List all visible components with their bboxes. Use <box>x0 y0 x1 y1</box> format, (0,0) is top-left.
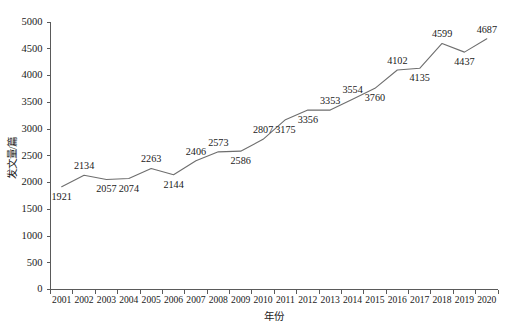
data-point-label: 3760 <box>365 92 385 103</box>
x-tick-label: 2001 <box>52 294 71 305</box>
data-point-label: 2074 <box>119 183 139 194</box>
data-point-label: 4687 <box>477 24 497 35</box>
x-tick-label: 2009 <box>231 294 250 305</box>
y-tick-label: 2000 <box>22 176 43 187</box>
data-point-label: 4102 <box>387 55 407 66</box>
data-point-label: 2586 <box>231 155 251 166</box>
x-tick-label: 2016 <box>388 294 407 305</box>
x-axis: 2001200220032004200520062007200820092010… <box>51 290 499 305</box>
x-tick-label: 2018 <box>432 294 451 305</box>
data-point-label: 3175 <box>275 124 295 135</box>
x-axis-ticks <box>51 290 499 294</box>
line-chart: 0500100015002000250030003500400045005000… <box>0 0 517 330</box>
data-point-label: 2406 <box>186 146 206 157</box>
y-axis: 0500100015002000250030003500400045005000 <box>22 16 51 295</box>
x-tick-label: 2008 <box>209 294 228 305</box>
y-tick-label: 1500 <box>22 203 43 214</box>
x-tick-label: 2014 <box>343 294 362 305</box>
data-point-label: 1921 <box>52 191 72 202</box>
chart-canvas: 0500100015002000250030003500400045005000… <box>0 0 517 330</box>
y-tick-label: 500 <box>27 257 43 268</box>
x-tick-label: 2015 <box>365 294 384 305</box>
y-axis-ticks <box>47 22 51 290</box>
x-axis-tick-labels: 2001200220032004200520062007200820092010… <box>52 294 497 305</box>
data-point-labels: 1921213420572074226321442406257325862807… <box>52 24 498 202</box>
data-point-label: 4437 <box>454 56 474 67</box>
x-tick-label: 2005 <box>142 294 161 305</box>
x-tick-label: 2013 <box>321 294 340 305</box>
y-axis-tick-labels: 0500100015002000250030003500400045005000 <box>22 16 43 295</box>
x-axis-title: 年份 <box>264 310 285 322</box>
data-point-label: 3356 <box>298 114 318 125</box>
y-axis-title: 发文量/篇 <box>6 137 18 180</box>
x-tick-label: 2012 <box>298 294 317 305</box>
x-tick-label: 2003 <box>97 294 116 305</box>
x-tick-label: 2020 <box>477 294 496 305</box>
data-point-label: 2134 <box>74 160 94 171</box>
x-tick-label: 2019 <box>455 294 474 305</box>
y-tick-label: 2500 <box>22 150 43 161</box>
data-point-label: 2144 <box>163 179 183 190</box>
data-point-label: 4135 <box>410 72 430 83</box>
series-line-publications <box>62 39 487 187</box>
x-tick-label: 2017 <box>410 294 429 305</box>
x-tick-label: 2006 <box>164 294 183 305</box>
y-tick-label: 3000 <box>22 123 43 134</box>
x-tick-label: 2004 <box>119 294 138 305</box>
y-tick-label: 0 <box>37 283 42 294</box>
x-tick-label: 2007 <box>186 294 205 305</box>
data-point-label: 2263 <box>141 153 161 164</box>
y-tick-label: 4500 <box>22 43 43 54</box>
data-point-label: 3353 <box>320 95 340 106</box>
x-tick-label: 2011 <box>276 294 295 305</box>
y-tick-label: 1000 <box>22 230 43 241</box>
data-point-label: 3554 <box>342 84 362 95</box>
x-tick-label: 2010 <box>253 294 272 305</box>
x-tick-label: 2002 <box>74 294 93 305</box>
y-tick-label: 5000 <box>22 16 43 27</box>
data-point-label: 2807 <box>253 124 273 135</box>
data-point-label: 4599 <box>432 28 452 39</box>
data-point-label: 2057 <box>96 183 116 194</box>
y-tick-label: 3500 <box>22 96 43 107</box>
data-point-label: 2573 <box>208 137 228 148</box>
y-tick-label: 4000 <box>22 69 43 80</box>
